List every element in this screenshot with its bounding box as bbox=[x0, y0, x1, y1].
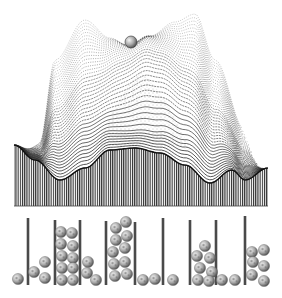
energy-landscape-illustration bbox=[0, 0, 282, 298]
bin-balls bbox=[12, 216, 269, 286]
illustration bbox=[0, 0, 282, 298]
top-ball bbox=[125, 36, 137, 48]
